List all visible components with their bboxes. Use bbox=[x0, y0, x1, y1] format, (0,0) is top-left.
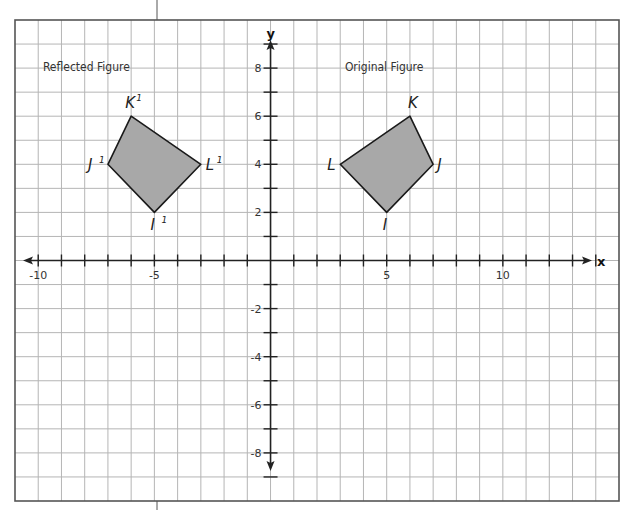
x-tick-label: 5 bbox=[383, 269, 390, 282]
vertex-label-k-prime: K bbox=[125, 94, 136, 112]
y-tick-label: 4 bbox=[255, 158, 262, 171]
y-tick-label: -8 bbox=[251, 447, 262, 460]
reflected-figure-title: Reflected Figure bbox=[43, 60, 130, 74]
vertex-prime-mark: 1 bbox=[136, 93, 142, 103]
vertex-label-k: K bbox=[408, 94, 419, 112]
y-tick-label: -6 bbox=[251, 399, 262, 412]
vertex-prime-mark: 1 bbox=[217, 155, 223, 165]
x-tick-label: -5 bbox=[149, 269, 160, 282]
y-axis-label: y bbox=[267, 26, 276, 41]
vertex-label-l: L bbox=[327, 156, 335, 174]
y-tick-label: 2 bbox=[255, 206, 262, 219]
original-figure-title: Original Figure bbox=[345, 60, 424, 74]
y-tick-label: 8 bbox=[255, 62, 262, 75]
vertex-prime-mark: 1 bbox=[99, 155, 105, 165]
coordinate-plane: -10-55108642-2-4-6-8 IJKLI1J1K1L1 Reflec… bbox=[0, 0, 630, 510]
vertex-label-i: I bbox=[383, 216, 388, 234]
vertex-label-j: J bbox=[434, 156, 441, 174]
x-tick-label: 10 bbox=[496, 269, 510, 282]
vertex-label-j-prime: J bbox=[85, 156, 92, 174]
vertex-prime-mark: 1 bbox=[161, 215, 167, 225]
x-tick-label: -10 bbox=[29, 269, 47, 282]
y-tick-label: -4 bbox=[251, 351, 262, 364]
coordinate-plane-svg: -10-55108642-2-4-6-8 IJKLI1J1K1L1 Reflec… bbox=[0, 0, 630, 510]
y-tick-label: -2 bbox=[251, 303, 262, 316]
y-tick-label: 6 bbox=[255, 110, 262, 123]
vertex-label-i-prime: I bbox=[150, 216, 155, 234]
x-axis-label: x bbox=[597, 254, 606, 269]
vertex-label-l-prime: L bbox=[206, 156, 214, 174]
